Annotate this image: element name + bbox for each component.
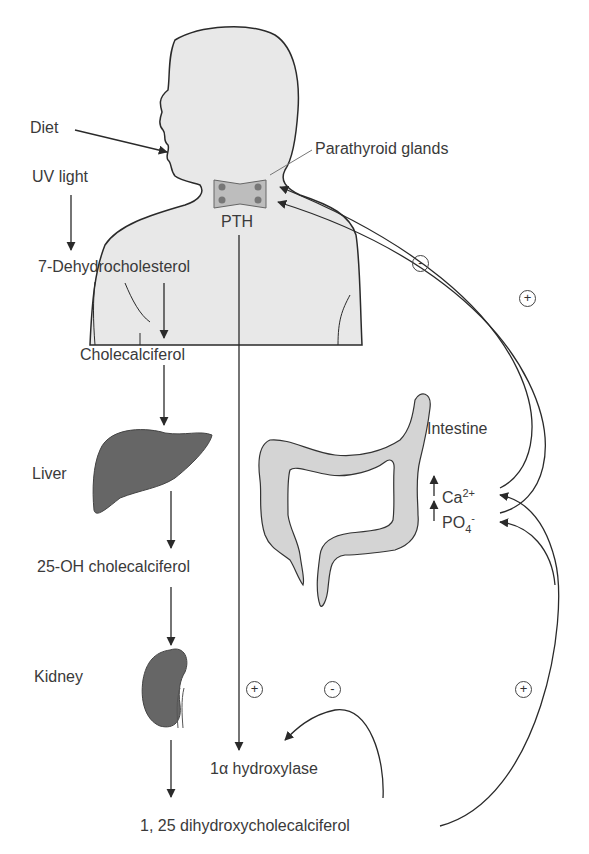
pth-label: PTH <box>221 213 253 231</box>
feedback-minus-sign: - <box>324 681 341 698</box>
pth-plus-sign: + <box>246 681 263 698</box>
cholecalciferol-label: Cholecalciferol <box>80 346 185 364</box>
uv-light-label: UV light <box>32 168 88 186</box>
neck-minus-sign: - <box>412 255 429 272</box>
dihydroxy-to-hydroxylase-arrow <box>285 710 383 798</box>
dehydrocholesterol-label: 7-Dehydrocholesterol <box>38 258 190 276</box>
intestine-shape <box>259 394 430 606</box>
diet-arrow <box>75 130 167 152</box>
hydroxylase-label: 1α hydroxylase <box>210 760 318 778</box>
liver-shape <box>93 430 212 514</box>
dihydroxycholecalciferol-label: 1, 25 dihydroxycholecalciferol <box>140 817 350 835</box>
25oh-cholecalciferol-label: 25-OH cholecalciferol <box>37 558 190 576</box>
calcium-label: Ca2+ <box>442 484 475 507</box>
diet-label: Diet <box>30 119 58 137</box>
gland-dot <box>219 184 226 191</box>
gland-dot <box>219 197 226 204</box>
kidney-shape <box>142 649 187 727</box>
liver-label: Liver <box>32 465 67 483</box>
intestine-plus-sign: + <box>515 681 532 698</box>
neck-plus-sign: + <box>519 290 536 307</box>
gland-dot <box>255 197 262 204</box>
kidney-label: Kidney <box>34 668 83 686</box>
diagram-canvas <box>0 0 589 854</box>
phosphate-label: PO4- <box>442 509 475 538</box>
gland-dot <box>255 184 262 191</box>
intestine-label: Intestine <box>427 420 487 438</box>
dihydroxy-to-po4-arrow <box>500 522 555 585</box>
parathyroid-label: Parathyroid glands <box>315 140 448 158</box>
